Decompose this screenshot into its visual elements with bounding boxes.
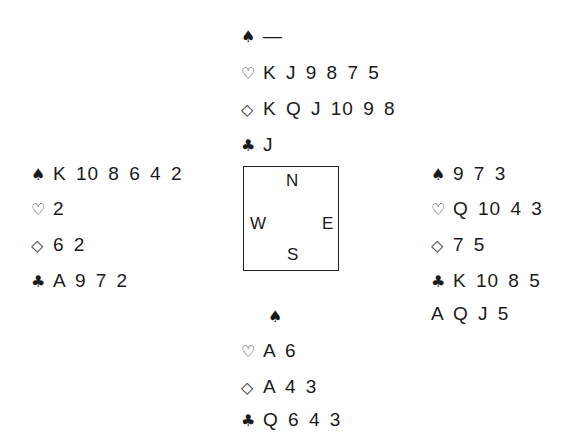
south-diamonds: ◇A 4 3: [241, 376, 317, 399]
compass-west: W: [250, 215, 266, 233]
south-hearts: ♡A 6: [241, 340, 296, 363]
spade-icon: ♠: [31, 164, 53, 186]
diamond-icon: ◇: [241, 99, 263, 121]
south-clubs: ♣Q 6 4 3: [241, 409, 341, 432]
west-hearts: ♡2: [31, 198, 65, 221]
club-icon: ♣: [241, 135, 263, 157]
spade-icon: ♠: [431, 164, 453, 186]
south-spades: ♠: [268, 305, 290, 328]
east-hearts: ♡Q 10 4 3: [431, 198, 543, 221]
club-icon: ♣: [431, 271, 453, 293]
spade-icon: ♠: [268, 306, 290, 328]
diamond-icon: ◇: [31, 235, 53, 257]
compass-box: N W E S: [243, 166, 339, 271]
west-spades: ♠K 10 8 6 4 2: [31, 163, 182, 186]
club-icon: ♣: [241, 410, 263, 432]
compass-east: E: [322, 215, 333, 233]
north-hearts: ♡K J 9 8 7 5: [241, 62, 380, 85]
heart-icon: ♡: [241, 341, 263, 363]
heart-icon: ♡: [431, 199, 453, 221]
diamond-icon: ◇: [431, 235, 453, 257]
north-diamonds: ◇K Q J 10 9 8: [241, 98, 396, 121]
club-icon: ♣: [31, 271, 53, 293]
north-clubs: ♣J: [241, 134, 274, 157]
heart-icon: ♡: [31, 199, 53, 221]
compass-north: N: [286, 172, 298, 190]
diamond-icon: ◇: [241, 377, 263, 399]
east-diamonds: ◇7 5: [431, 234, 485, 257]
east-spades: ♠9 7 3: [431, 163, 506, 186]
east-clubs: ♣K 10 8 5: [431, 270, 541, 293]
spade-icon: ♠: [241, 26, 263, 48]
north-spades: ♠—: [241, 25, 283, 48]
west-clubs: ♣A 9 7 2: [31, 270, 128, 293]
compass-south: S: [287, 246, 298, 264]
west-diamonds: ◇6 2: [31, 234, 85, 257]
east-extra: A Q J 5: [431, 303, 509, 325]
heart-icon: ♡: [241, 63, 263, 85]
